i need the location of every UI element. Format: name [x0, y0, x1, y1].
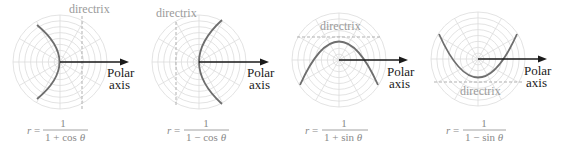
grid-spoke — [339, 60, 363, 101]
svg-text:r =: r = — [167, 124, 180, 136]
svg-text:1 − cos θ: 1 − cos θ — [186, 131, 227, 143]
svg-text:1: 1 — [203, 117, 209, 129]
grid-spoke — [60, 39, 101, 63]
grid-spoke — [158, 62, 199, 86]
grid-spoke — [158, 39, 199, 63]
grid-spoke — [455, 18, 479, 59]
grid-spoke — [339, 37, 380, 61]
grid-spoke — [478, 36, 519, 60]
svg-text:1 − sin θ: 1 − sin θ — [465, 131, 504, 143]
directrix-label: directrix — [460, 84, 501, 98]
grid-spoke — [478, 59, 519, 83]
formula: r = 1 1 − cos θ — [167, 117, 229, 143]
arrow-head-icon — [399, 57, 408, 64]
panel-4: directrix Polar axis r = 1 1 − sin θ — [431, 12, 552, 143]
directrix-label: directrix — [156, 6, 197, 20]
grid-spoke — [437, 59, 478, 83]
grid-spoke — [60, 62, 101, 86]
panel-3: directrix Polar axis r = 1 1 + sin θ — [292, 13, 415, 143]
arrow-head-icon — [538, 56, 547, 63]
grid-spoke — [478, 18, 502, 59]
grid-spoke — [176, 62, 200, 103]
grid-spoke — [176, 21, 200, 62]
svg-text:1: 1 — [60, 117, 66, 129]
directrix-label: directrix — [320, 19, 361, 33]
conic-polar-figure: directrix Polar axis r = 1 1 + cos θ dir… — [0, 0, 561, 151]
grid-spoke — [316, 60, 340, 101]
panel-1: directrix Polar axis r = 1 1 + cos θ — [13, 2, 135, 143]
svg-text:1: 1 — [341, 117, 347, 129]
grid-spoke — [199, 62, 223, 103]
polar-axis-label-2: axis — [526, 75, 547, 90]
formula: r = 1 1 + sin θ — [305, 117, 368, 143]
polar-axis-label-2: axis — [249, 77, 270, 92]
grid-spoke — [298, 60, 339, 84]
svg-text:r =: r = — [305, 124, 318, 136]
grid-spoke — [60, 62, 84, 103]
polar-axis-label-2: axis — [389, 76, 410, 91]
grid-spoke — [437, 36, 478, 60]
polar-axis-label-2: axis — [109, 77, 130, 92]
directrix-label: directrix — [69, 2, 110, 16]
formula: r = 1 1 + cos θ — [27, 117, 88, 143]
svg-text:1 + cos θ: 1 + cos θ — [45, 131, 86, 143]
svg-text:1 + sin θ: 1 + sin θ — [324, 131, 363, 143]
svg-text:r =: r = — [27, 124, 40, 136]
svg-text:r =: r = — [446, 124, 459, 136]
grid-spoke — [298, 37, 339, 61]
svg-text:1: 1 — [481, 117, 487, 129]
grid-spoke — [60, 21, 84, 62]
grid-spoke — [199, 21, 223, 62]
grid-spoke — [339, 60, 380, 84]
panel-2: directrix Polar axis r = 1 1 − cos θ — [152, 6, 275, 143]
formula: r = 1 1 − sin θ — [446, 117, 506, 143]
